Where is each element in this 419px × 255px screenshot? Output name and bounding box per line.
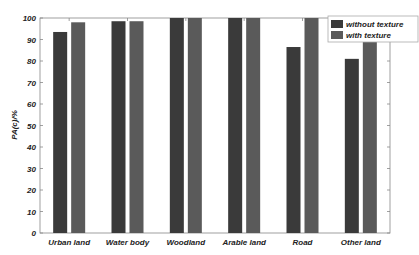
y-tick-label: 70 bbox=[27, 79, 36, 88]
bar bbox=[170, 18, 184, 233]
y-tick-label: 100 bbox=[23, 14, 37, 23]
bar bbox=[363, 40, 377, 234]
y-tick-label: 0 bbox=[32, 229, 37, 238]
bar bbox=[287, 47, 301, 233]
x-category-label: Woodland bbox=[167, 238, 207, 247]
x-category-label: Water body bbox=[106, 238, 150, 247]
legend-label: without texture bbox=[346, 20, 404, 29]
x-category-label: Arable land bbox=[221, 238, 267, 247]
bar bbox=[188, 18, 202, 233]
y-tick-label: 60 bbox=[27, 100, 36, 109]
bar bbox=[305, 18, 319, 233]
bar bbox=[228, 18, 242, 233]
legend-swatch bbox=[331, 20, 343, 28]
x-category-label: Urban land bbox=[48, 238, 91, 247]
plot-area bbox=[40, 18, 390, 233]
plot-frame bbox=[40, 18, 390, 233]
y-tick-label: 90 bbox=[27, 36, 36, 45]
x-category-label: Road bbox=[293, 238, 314, 247]
bar-chart: 0102030405060708090100 Urban landWater b… bbox=[0, 0, 419, 255]
y-axis-label: PA(c)/% bbox=[10, 110, 19, 140]
legend-label: with texture bbox=[346, 31, 391, 40]
y-tick-label: 30 bbox=[27, 165, 36, 174]
bar bbox=[246, 18, 260, 233]
bar bbox=[130, 21, 144, 233]
x-category-label: Other land bbox=[341, 238, 382, 247]
legend: without texturewith texture bbox=[328, 16, 418, 42]
y-tick-label: 40 bbox=[26, 143, 36, 152]
y-tick-label: 10 bbox=[27, 208, 36, 217]
y-tick-label: 50 bbox=[27, 122, 36, 131]
legend-swatch bbox=[331, 31, 343, 39]
bar bbox=[345, 59, 359, 233]
y-tick-label: 20 bbox=[26, 186, 36, 195]
y-tick-label: 80 bbox=[27, 57, 36, 66]
bar bbox=[53, 32, 67, 233]
bar bbox=[71, 22, 85, 233]
bar bbox=[112, 21, 126, 233]
